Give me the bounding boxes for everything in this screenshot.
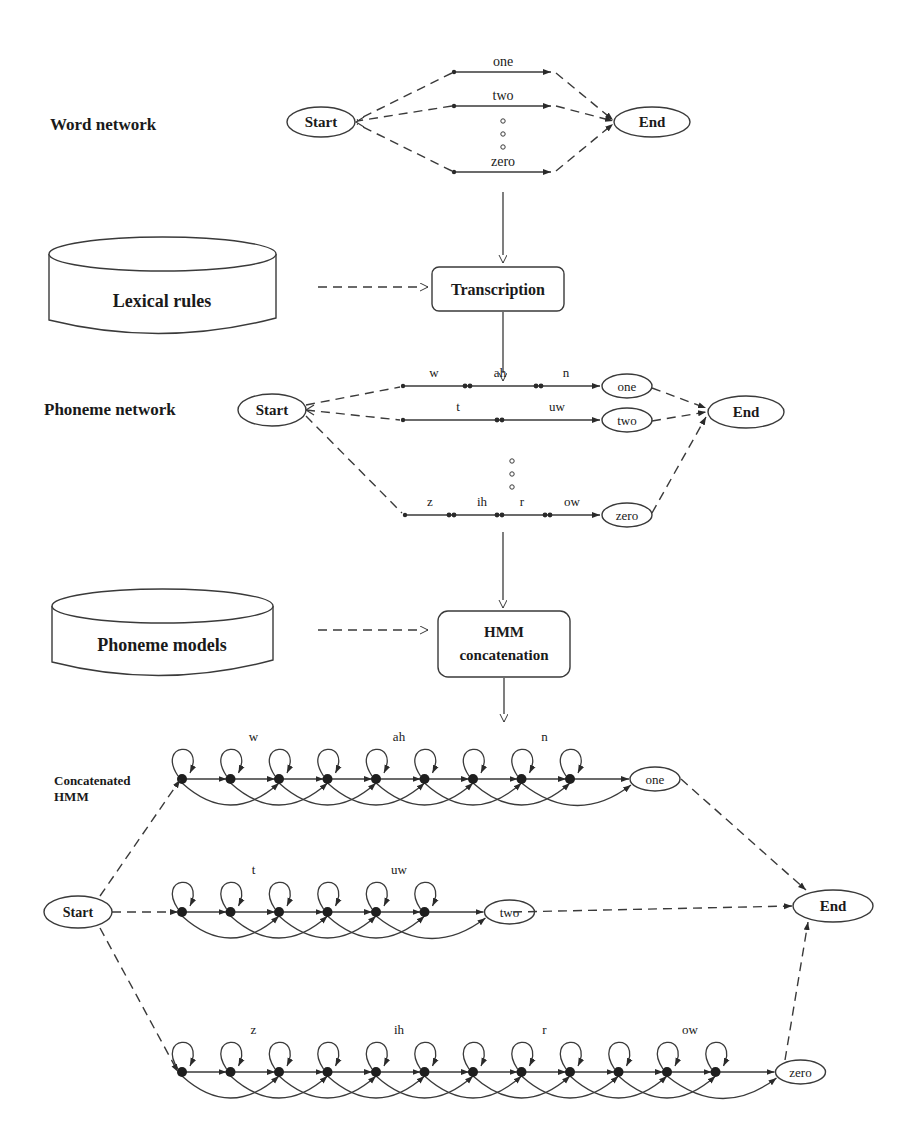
phoneme-w: w: [429, 365, 439, 380]
hmm-start-label: Start: [63, 905, 94, 920]
phoneme-network: Phoneme network Start End w ah n one t u…: [44, 365, 784, 527]
diagram-canvas: Word network Start End one two zero Lexi…: [0, 0, 912, 1131]
phoneme-word-two: two: [617, 413, 637, 428]
phoneme-end-label: End: [733, 404, 760, 420]
phoneme-word-zero: zero: [616, 508, 638, 523]
hmm-phoneme-z: z: [251, 1022, 257, 1037]
concatenated-hmm: Concatenated HMM Start End wahnonetuwtwo…: [44, 729, 873, 1099]
concatenated-hmm-label-2: HMM: [54, 789, 89, 804]
phoneme-ow: ow: [564, 494, 581, 509]
hmm-concat-line2: concatenation: [459, 647, 549, 663]
hmm-phoneme-uw: uw: [391, 862, 408, 877]
phoneme-z: z: [427, 494, 433, 509]
word-end-label: End: [639, 114, 666, 130]
hmm-word-label-one: one: [646, 772, 665, 787]
hmm-phoneme-w: w: [249, 729, 259, 744]
transcription-label: Transcription: [451, 281, 545, 299]
hmm-phoneme-n: n: [541, 729, 548, 744]
phoneme-network-label: Phoneme network: [44, 400, 176, 419]
phoneme-r: r: [520, 494, 525, 509]
hmm-row-two: tuwtwo: [172, 862, 534, 939]
phoneme-models-database: Phoneme models: [52, 589, 273, 676]
hmm-phoneme-r: r: [542, 1022, 547, 1037]
word-one: one: [493, 54, 513, 69]
hmm-word-label-zero: zero: [789, 1065, 811, 1080]
concatenated-hmm-label-1: Concatenated: [54, 773, 131, 788]
word-start-label: Start: [305, 114, 338, 130]
phoneme-ah: ah: [494, 365, 507, 380]
phoneme-start-label: Start: [256, 402, 289, 418]
hmm-phoneme-ih: ih: [394, 1022, 405, 1037]
hmm-row-zero: zihrowzero: [172, 1022, 825, 1099]
hmm-end-label: End: [820, 898, 847, 914]
hmm-concat-line1: HMM: [484, 624, 524, 640]
word-two: two: [493, 88, 514, 103]
phoneme-n: n: [563, 365, 570, 380]
phoneme-word-one: one: [618, 379, 637, 394]
lexical-rules-database: Lexical rules: [49, 237, 276, 334]
hmm-phoneme-ow: ow: [682, 1022, 699, 1037]
lexical-rules-label: Lexical rules: [113, 291, 211, 311]
word-network: Word network Start End one two zero: [50, 54, 690, 174]
word-network-label: Word network: [50, 115, 157, 134]
phoneme-uw: uw: [549, 399, 566, 414]
phoneme-ih: ih: [477, 494, 488, 509]
hmm-phoneme-t: t: [252, 862, 256, 877]
hmm-row-one: wahnone: [172, 729, 680, 806]
phoneme-t: t: [456, 399, 460, 414]
hmm-phoneme-ah: ah: [393, 729, 406, 744]
phoneme-models-label: Phoneme models: [97, 635, 227, 655]
word-zero: zero: [491, 154, 515, 169]
transcription-box: Transcription: [432, 267, 564, 311]
hmm-concatenation-box: HMM concatenation: [438, 611, 570, 677]
